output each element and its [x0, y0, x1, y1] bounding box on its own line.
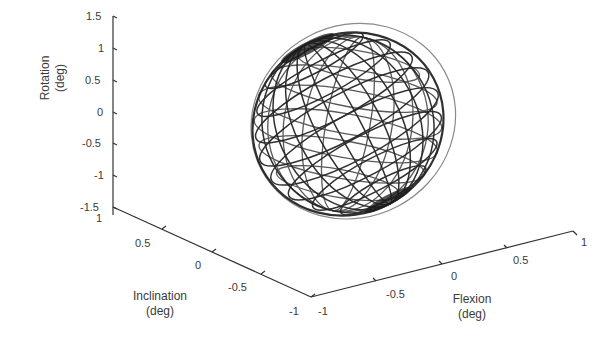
- inclination-title: Inclination: [120, 289, 200, 304]
- y-tick-1: 1: [96, 212, 102, 224]
- inclination-unit: (deg): [120, 304, 200, 319]
- flexion-title: Flexion: [440, 292, 504, 307]
- z-tick-neg0.5: -0.5: [82, 137, 101, 149]
- z-tick-0: 0: [97, 106, 103, 118]
- x-tick-0: 0: [451, 270, 457, 282]
- rotation-title: Rotation: [38, 38, 53, 118]
- flexion-axis-title: Flexion (deg): [440, 292, 504, 322]
- ellipsoid-wireframe: [176, 0, 520, 296]
- y-tick-neg1: -1: [289, 305, 299, 317]
- y-tick-0.5: 0.5: [135, 237, 150, 249]
- flexion-unit: (deg): [440, 307, 504, 322]
- y-tick-0: 0: [195, 259, 201, 271]
- z-tick-1.5: 1.5: [86, 10, 101, 22]
- z-tick-0.5: 0.5: [85, 74, 100, 86]
- rotation-axis-title: Rotation (deg): [38, 38, 70, 118]
- z-tick-neg1: -1: [94, 169, 104, 181]
- x-tick-neg0.5: -0.5: [386, 288, 405, 300]
- z-tick-1: 1: [98, 42, 104, 54]
- plot-area: [0, 0, 605, 345]
- y-tick-neg0.5: -0.5: [228, 281, 247, 293]
- x-tick-1: 1: [581, 236, 587, 248]
- inclination-axis-title: Inclination (deg): [120, 289, 200, 319]
- x-tick-neg1: -1: [318, 305, 328, 317]
- rotation-unit: (deg): [53, 38, 68, 118]
- x-tick-0.5: 0.5: [513, 254, 528, 266]
